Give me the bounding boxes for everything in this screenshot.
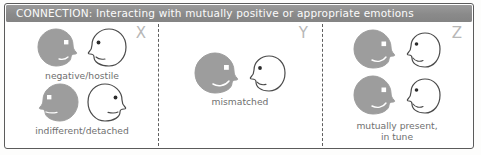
white-head-facing-left [85,26,129,68]
caption-in-tune: mutually present, in tune [322,120,472,142]
face-pair [6,80,158,124]
white-head-facing-left [403,29,443,69]
face-group-detached: indifferent/detached [6,80,158,136]
gray-head-facing-right [192,50,242,96]
white-head-facing-left [246,52,288,94]
caption-block-in-tune: mutually present, in tune [322,119,472,142]
face-group-in-tune-bottom [322,73,472,117]
face-group-mismatched: mismatched [158,51,322,107]
gray-head-facing-right [351,73,399,117]
face-pair [322,27,472,71]
panel-negative: X negative/hostile [6,23,158,147]
gray-head-facing-right [35,26,81,68]
panel-in-tune: Z [322,23,472,147]
caption-detached: indifferent/detached [6,125,158,136]
face-pair [322,73,472,117]
white-head-facing-left [403,75,443,115]
face-pair [6,25,158,69]
panels-container: X negative/hostile [6,23,472,147]
face-pair [158,51,322,95]
caption-mismatched: mismatched [158,96,322,107]
header-banner: CONNECTION: Interacting with mutually po… [6,5,472,22]
gray-head-facing-right [351,27,399,71]
panel-mismatched: Y mismatched [158,23,322,147]
connection-diagram: CONNECTION: Interacting with mutually po… [0,0,481,155]
face-group-in-tune-top [322,27,472,71]
face-group-hostile: negative/hostile [6,25,158,81]
gray-head-facing-left [35,81,81,123]
panel-mark-y: Y [299,26,308,41]
banner-title: CONNECTION: Interacting with mutually po… [16,7,414,19]
white-head-facing-right [85,81,129,123]
